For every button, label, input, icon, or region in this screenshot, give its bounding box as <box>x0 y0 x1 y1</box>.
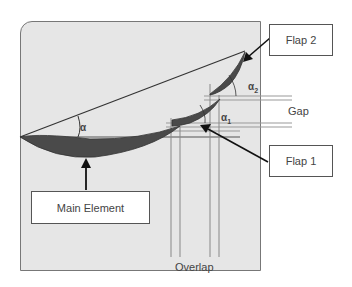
main-element-airfoil <box>20 126 180 157</box>
alpha-label: α <box>80 122 86 133</box>
overlap-label: Overlap <box>175 261 214 273</box>
main-element-label-box: Main Element <box>31 191 150 224</box>
flap1-label-box: Flap 1 <box>269 145 333 177</box>
alpha1-label: α1 <box>221 112 231 125</box>
alpha2-label: α2 <box>248 81 258 94</box>
flap2-label: Flap 2 <box>286 34 317 46</box>
gap-label: Gap <box>288 105 309 117</box>
overlap-guide-lines <box>171 84 219 257</box>
flap2-arrow <box>243 38 270 62</box>
flap1-label: Flap 1 <box>286 155 317 167</box>
flap1-airfoil <box>172 99 220 126</box>
main-element-label: Main Element <box>57 202 124 214</box>
main-element-arrow <box>81 158 91 190</box>
flap2-label-box: Flap 2 <box>269 24 333 56</box>
flap2-airfoil <box>210 52 245 95</box>
